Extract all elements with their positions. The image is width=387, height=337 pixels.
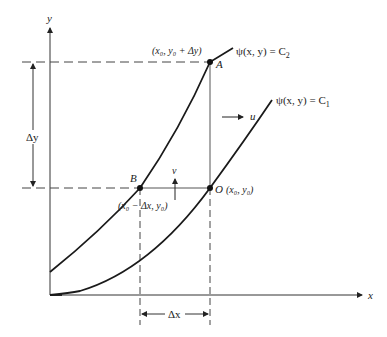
point-O-label: O(x₀, y₀) xyxy=(215,183,254,196)
point-A-coords: (x₀, y₀ + Δy) xyxy=(152,45,202,57)
point-O xyxy=(207,185,213,191)
curve-c2 xyxy=(50,48,233,272)
dx-label: Δx xyxy=(168,308,181,320)
curve-c1-label: ψ(x, y) = C1 xyxy=(276,94,330,109)
point-A xyxy=(207,59,213,65)
point-B-coords: (x₀ − Δx, y₀) xyxy=(118,200,168,212)
x-axis-label: x xyxy=(367,289,373,301)
u-label: u xyxy=(250,110,256,122)
stream-function-diagram: y x Δy Δx ψ(x, y) = C2 ψ(x, y) = C1 A (x… xyxy=(0,0,387,337)
dy-label: Δy xyxy=(26,131,39,143)
point-B-label: B xyxy=(130,172,137,184)
point-B xyxy=(137,185,143,191)
point-A-label: A xyxy=(215,58,223,70)
curve-c1 xyxy=(50,100,272,295)
y-axis-label: y xyxy=(46,12,52,24)
curve-c2-label: ψ(x, y) = C2 xyxy=(236,45,290,60)
diagram-canvas: y x Δy Δx ψ(x, y) = C2 ψ(x, y) = C1 A (x… xyxy=(0,0,387,337)
v-label: v xyxy=(172,165,177,176)
